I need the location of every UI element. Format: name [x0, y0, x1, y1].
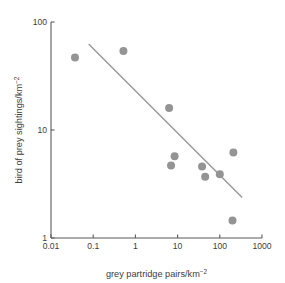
axis-tick-labels-group: 0.010.11101001000110100 — [33, 17, 272, 250]
y-axis-title: bird of prey sightings/km−2 — [13, 76, 24, 183]
chart-canvas: 0.010.11101001000110100 grey partridge p… — [0, 0, 285, 283]
data-point — [198, 162, 206, 170]
x-tick-label: 1 — [133, 241, 138, 251]
data-point — [229, 148, 237, 156]
data-point — [165, 104, 173, 112]
scatter-chart-figure: 0.010.11101001000110100 grey partridge p… — [0, 0, 285, 283]
y-tick-label: 10 — [37, 125, 47, 135]
data-point — [167, 161, 175, 169]
data-point — [119, 47, 127, 55]
y-tick-label: 100 — [33, 17, 48, 27]
y-tick-label: 1 — [42, 233, 47, 243]
x-tick-label: 10 — [173, 241, 183, 251]
x-tick-label: 0.1 — [87, 241, 99, 251]
data-point — [216, 170, 224, 178]
axis-ticks-group — [51, 22, 262, 238]
data-point — [71, 53, 79, 61]
data-point — [229, 217, 237, 225]
data-points-group — [71, 47, 237, 225]
data-point — [201, 173, 209, 181]
x-tick-label: 100 — [213, 241, 228, 251]
axes-group — [51, 22, 262, 238]
x-tick-label: 1000 — [252, 241, 271, 251]
x-axis-title: grey partridge pairs/km−2 — [106, 268, 208, 279]
data-point — [171, 152, 179, 160]
